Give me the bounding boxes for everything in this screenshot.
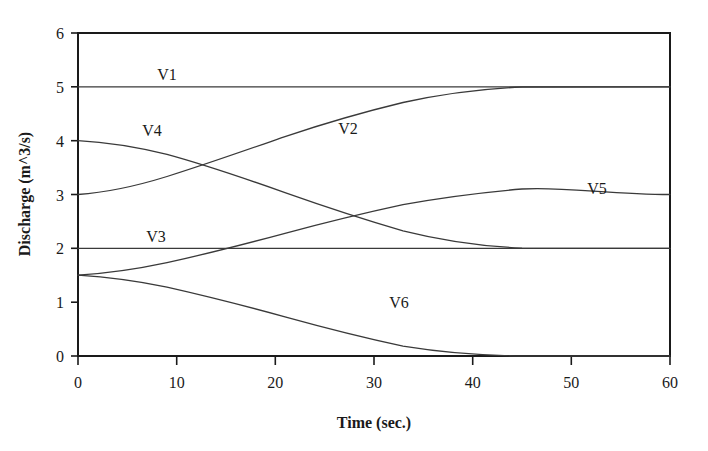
x-axis-title: Time (sec.): [337, 414, 411, 432]
y-axis-ticks: [71, 33, 78, 356]
y-tick-label-1: 1: [56, 294, 64, 311]
series-curve-v6: [78, 275, 670, 356]
x-tick-label-10: 10: [169, 374, 185, 391]
series-curve-v5: [78, 188, 670, 275]
x-tick-label-50: 50: [563, 374, 579, 391]
series-curve-v4: [78, 141, 670, 249]
x-tick-label-30: 30: [366, 374, 382, 391]
series-curves: [78, 87, 670, 356]
x-tick-label-40: 40: [465, 374, 481, 391]
y-tick-label-0: 0: [56, 348, 64, 365]
y-tick-label-3: 3: [56, 187, 64, 204]
y-axis-title: Discharge (m^3/s): [16, 132, 34, 256]
y-tick-label-6: 6: [56, 25, 64, 42]
series-label-v4: V4: [142, 122, 162, 139]
x-tick-label-0: 0: [74, 374, 82, 391]
chart-page: 6 5 4 3 2 1 0 0 10 20 30 40 50 60 Time (…: [0, 0, 708, 451]
series-label-v2: V2: [338, 120, 358, 137]
series-curve-v2: [78, 87, 670, 195]
x-axis-ticks: [78, 356, 670, 365]
x-tick-label-60: 60: [662, 374, 678, 391]
x-tick-label-20: 20: [267, 374, 283, 391]
y-tick-label-5: 5: [56, 79, 64, 96]
y-tick-label-2: 2: [56, 240, 64, 257]
discharge-time-line-chart: 6 5 4 3 2 1 0 0 10 20 30 40 50 60 Time (…: [0, 0, 708, 451]
series-label-v5: V5: [587, 180, 607, 197]
series-label-v1: V1: [157, 66, 177, 83]
series-label-v3: V3: [146, 228, 166, 245]
y-tick-label-4: 4: [56, 133, 64, 150]
series-label-v6: V6: [389, 294, 409, 311]
